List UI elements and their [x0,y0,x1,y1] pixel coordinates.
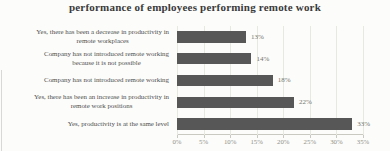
bar-row: Yes, there has been a decrease in produc… [0,26,390,48]
bar-track: 14% [177,53,363,65]
bar-track: 33% [177,118,363,130]
bar-row: Company has not introduced remote workin… [0,70,390,92]
category-label: Company has not introduced remote workin… [44,50,169,68]
x-axis-tick-label: 15% [250,138,262,145]
bar-track: 13% [177,31,363,43]
bar [177,75,273,87]
x-axis-tick-label: 0% [172,138,181,145]
value-label: 18% [278,76,291,84]
value-label: 22% [299,98,312,106]
x-axis-tick-label: 25% [304,138,316,145]
bar [177,97,294,109]
bar-row: Yes, productivity is at the same level 3… [0,113,390,135]
category-label: Yes, there has been a decrease in produc… [36,28,169,46]
value-label: 13% [251,33,264,41]
bar-track: 18% [177,75,363,87]
bar-row: Yes, there has been an increase in produ… [0,91,390,113]
value-label: 14% [256,55,269,63]
x-axis-tick-label: 35% [357,138,369,145]
bar [177,53,251,65]
category-label: Company has not introduced remote workin… [44,76,169,85]
chart-title: performance of employees performing remo… [0,1,390,13]
bar-rows: Yes, there has been a decrease in produc… [0,26,390,135]
category-label: Yes, productivity is at the same level [68,120,169,129]
x-axis-tick-label: 20% [277,138,289,145]
x-axis-tick-label: 10% [224,138,236,145]
x-axis-tick-label: 30% [330,138,342,145]
bar-row: Company has not introduced remote workin… [0,48,390,70]
bar-chart: performance of employees performing remo… [0,0,390,151]
category-label: Yes, there has been an increase in produ… [34,93,169,111]
bar-track: 22% [177,97,363,109]
value-label: 33% [357,120,370,128]
bar [177,118,352,130]
bar [177,31,246,43]
x-axis-tick-labels: 0%5%10%15%20%25%30%35% [177,138,363,148]
x-axis-tick-label: 5% [199,138,208,145]
